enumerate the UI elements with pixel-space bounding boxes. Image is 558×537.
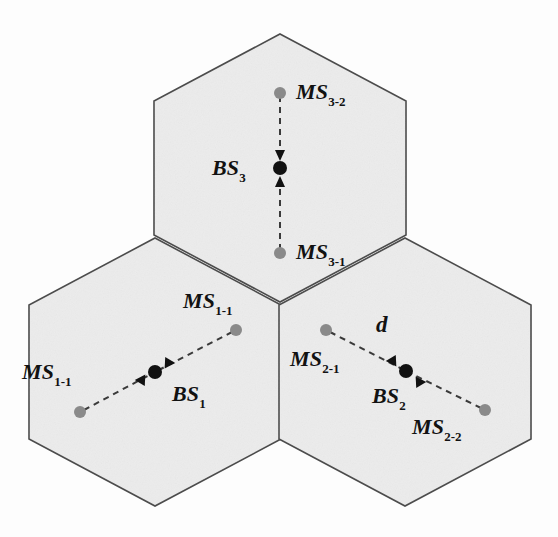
bs-dot-1 (148, 365, 162, 379)
ms-dot-3-1 (274, 247, 286, 259)
label-ms-2-1: MS2-1 (290, 348, 340, 372)
ms-dot-1-1-lower (74, 406, 86, 418)
label-bs-3: BS3 (212, 157, 246, 181)
label-bs-2: BS2 (372, 385, 406, 409)
label-bs-1: BS1 (172, 383, 206, 407)
ms-dot-1-1-upper (230, 324, 242, 336)
label-ms-1-1-upper: MS1-1 (183, 290, 233, 314)
label-ms-1-1-lower: MS1-1 (22, 361, 72, 385)
ms-dot-2-2 (479, 404, 491, 416)
bs-dot-3 (273, 161, 287, 175)
diagram-canvas (0, 0, 558, 537)
bs-dot-2 (399, 364, 413, 378)
label-ms-3-1: MS3-1 (296, 241, 346, 265)
label-ms-2-2: MS2-2 (412, 416, 462, 440)
ms-dot-3-2 (274, 87, 286, 99)
hexagonal-cell-diagram: MS3-2 BS3 MS3-1 MS1-1 MS1-1 BS1 MS2-1 d … (0, 0, 558, 537)
label-distance-d: d (376, 313, 388, 336)
ms-dot-2-1 (320, 324, 332, 336)
label-ms-3-2: MS3-2 (296, 81, 346, 105)
